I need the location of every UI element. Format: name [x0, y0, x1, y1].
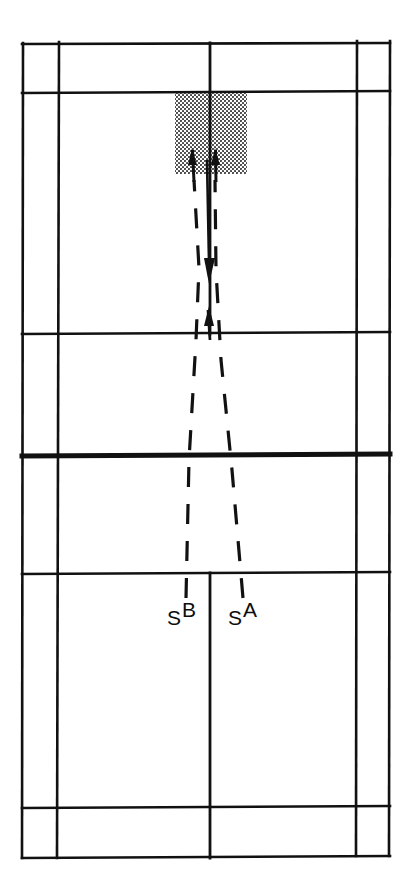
left-singles-sideline	[57, 42, 59, 858]
left-doubles-sideline	[22, 43, 23, 858]
net-line	[22, 454, 390, 456]
label-server-a-base: S	[228, 606, 242, 629]
court-drawing	[0, 0, 416, 880]
label-server-a-superscript: A	[243, 598, 257, 621]
label-server-a: SA	[228, 607, 257, 628]
label-server-b: SB	[167, 607, 196, 628]
bottom-short-service-line	[22, 572, 390, 574]
label-server-b-base: S	[167, 606, 181, 629]
top-short-service-line	[22, 332, 390, 334]
top-back-boundary-doubles	[22, 43, 390, 44]
trajectory-from-sb	[186, 180, 199, 598]
arrow-up-at-service-line	[204, 306, 214, 340]
top-long-service-line-doubles	[22, 91, 390, 93]
right-doubles-sideline	[389, 41, 390, 856]
trajectory-from-sa	[215, 180, 243, 598]
bottom-back-boundary-doubles	[22, 856, 390, 858]
badminton-court-figure: SB SA	[0, 0, 416, 880]
right-singles-sideline	[356, 41, 357, 856]
bottom-long-service-line-doubles	[22, 806, 390, 808]
label-server-b-superscript: B	[182, 598, 196, 621]
